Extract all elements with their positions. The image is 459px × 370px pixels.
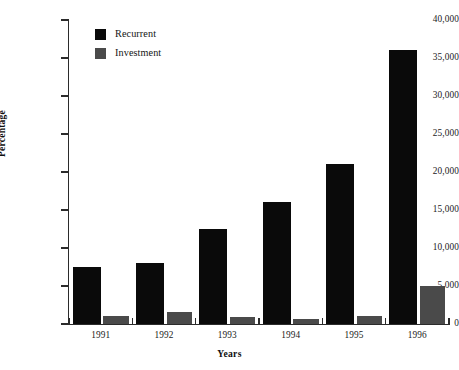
x-axis-tick-label: 1991 [69,331,132,340]
y-axis-tick [61,95,69,96]
legend-item: Investment [95,45,161,61]
legend-swatch-icon [95,29,106,40]
y-axis-tick [61,133,69,134]
bar-investment-1991 [103,316,128,324]
plot-area [69,20,449,324]
y-axis-tick [61,209,69,210]
chart-figure: 05,00010,00015,00020,00025,00030,00035,0… [0,0,459,370]
y-axis-tick [61,57,69,58]
legend-swatch-icon [95,48,106,59]
bar-investment-1994 [293,319,318,324]
y-axis-tick [61,247,69,248]
x-axis-tick-label: 1994 [259,331,322,340]
legend-item: Recurrent [95,26,161,42]
y-axis-tick [61,171,69,172]
bar-recurrent-1996 [389,50,417,324]
y-axis-tick [61,19,69,20]
legend-label: Investment [115,48,161,58]
x-axis-tick-label: 1992 [132,331,195,340]
legend-label: Recurrent [115,29,156,39]
bar-recurrent-1992 [136,263,164,324]
bar-investment-1992 [167,312,192,324]
bar-recurrent-1993 [199,229,227,324]
bar-investment-1996 [420,286,445,324]
y-axis-title: Percentage [0,110,7,157]
bar-investment-1993 [230,317,255,324]
x-axis-tick-label: 1993 [196,331,259,340]
chart-legend: RecurrentInvestment [95,26,161,64]
y-axis-tick [61,285,69,286]
bar-recurrent-1991 [73,267,101,324]
x-axis-tick-label: 1995 [322,331,385,340]
x-axis-title: Years [0,348,459,359]
x-axis-tick-label: 1996 [386,331,449,340]
bar-recurrent-1994 [263,202,291,324]
bar-recurrent-1995 [326,164,354,324]
bar-investment-1995 [357,316,382,324]
